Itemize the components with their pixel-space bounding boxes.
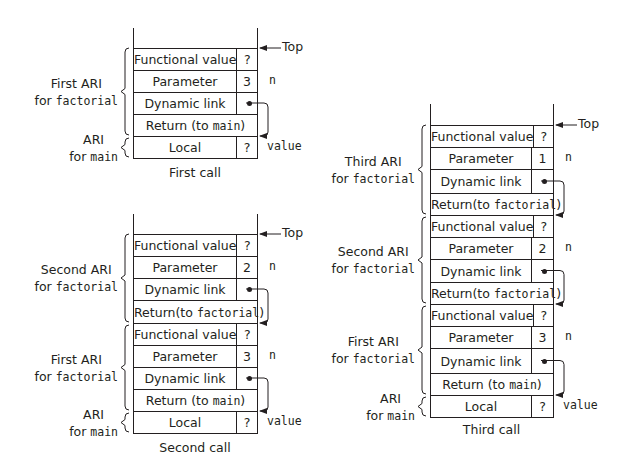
row-label-text: Local	[169, 415, 201, 430]
row-label: Parameter	[431, 151, 531, 166]
ari-label-line2: for main	[69, 148, 118, 166]
row-value-cell: ?	[533, 216, 553, 237]
ari-label-line2: for factorial	[332, 170, 415, 188]
ari-group-label: First ARIfor factorial	[35, 75, 118, 110]
row-label: Parameter	[134, 260, 236, 275]
stack-row: Return (to main)	[430, 373, 554, 395]
row-label: Dynamic link	[431, 354, 531, 369]
stack-right-rail	[257, 214, 258, 234]
ari-brace	[418, 306, 426, 394]
stack-row: Return(to factorial)	[430, 282, 554, 304]
row-value-cell: 1	[531, 148, 553, 169]
row-value-cell: 3	[531, 327, 553, 348]
row-label: Parameter	[134, 74, 236, 89]
stack-left-rail	[430, 104, 431, 125]
stack-row: Parameter3	[430, 326, 554, 348]
stack-row: Functional value?	[430, 125, 554, 147]
ari-brace	[121, 413, 129, 432]
row-label-suffix: )	[537, 377, 542, 392]
ari-brace	[121, 138, 129, 157]
row-label-text: Dynamic link	[440, 264, 521, 279]
row-value-cell: ?	[533, 305, 553, 326]
row-label-text: Return (to	[146, 393, 213, 408]
parameter-name-n: n	[565, 150, 572, 164]
ari-label-prefix: for	[35, 93, 56, 108]
row-label: Functional value	[431, 308, 533, 323]
dynamic-link-dot-icon	[236, 93, 257, 114]
row-label: Return (to main)	[134, 118, 257, 133]
parameter-name-n: n	[269, 348, 276, 362]
row-label-text: Functional value	[134, 238, 236, 253]
ari-label-line2: for factorial	[35, 368, 118, 386]
stack-row: Parameter2	[430, 237, 554, 259]
row-label-text: Return (to	[442, 377, 509, 392]
top-pointer-label: Top	[578, 116, 599, 131]
pointer-dot-icon	[247, 101, 252, 106]
stack-row: Parameter3	[133, 70, 258, 92]
row-label-code: main	[213, 119, 241, 133]
ari-brace	[418, 125, 426, 214]
top-pointer-label: Top	[282, 225, 303, 240]
stack-row: Dynamic link	[133, 367, 258, 389]
row-value-cell: ?	[236, 235, 257, 256]
row-label-text: Local	[169, 140, 201, 155]
row-label-text: Functional value	[134, 327, 236, 342]
row-label-text: Functional value	[431, 129, 533, 144]
pointer-dot-icon	[542, 359, 547, 364]
ari-label-prefix: for	[69, 149, 90, 164]
ari-label-code: factorial	[353, 352, 415, 366]
ari-brace	[418, 397, 426, 416]
stack-row: Functional value?	[133, 48, 258, 70]
ari-brace	[418, 217, 426, 303]
row-label: Dynamic link	[431, 174, 531, 189]
stack-row: Dynamic link	[430, 259, 554, 282]
row-label-text: Dynamic link	[144, 96, 225, 111]
row-label: Dynamic link	[134, 282, 236, 297]
row-label-text: Parameter	[448, 330, 513, 345]
row-label: Functional value	[431, 129, 533, 144]
ari-label-line1: First ARI	[35, 351, 118, 368]
local-name-value: value	[563, 398, 598, 412]
row-label-suffix: )	[240, 118, 245, 133]
ari-label-line2: for main	[69, 423, 118, 441]
row-label-text: Local	[465, 399, 497, 414]
row-label: Return (to main)	[134, 393, 257, 408]
row-value-cell: 2	[236, 257, 257, 278]
ari-label-code: factorial	[353, 172, 415, 186]
row-label-text: Parameter	[152, 349, 217, 364]
pointer-dot-icon	[247, 376, 252, 381]
ari-label-line1: Second ARI	[332, 243, 415, 260]
stack-row: Return (to main)	[133, 114, 258, 136]
stack-row: Functional value?	[430, 304, 554, 326]
row-label: Parameter	[431, 330, 531, 345]
ari-label-code: factorial	[56, 94, 118, 108]
stack-left-rail	[133, 214, 134, 234]
ari-label-code: factorial	[353, 262, 415, 276]
row-value-cell: ?	[236, 324, 257, 345]
stack-right-rail	[553, 104, 554, 125]
pointer-dot-icon	[542, 179, 547, 184]
ari-label-prefix: for	[69, 424, 90, 439]
row-label: Return(to factorial)	[134, 305, 264, 320]
parameter-name-n: n	[565, 240, 572, 254]
ari-label-line1: Third ARI	[332, 153, 415, 170]
row-label: Return(to factorial)	[431, 286, 561, 301]
row-label: Functional value	[134, 238, 236, 253]
row-label: Dynamic link	[134, 96, 236, 111]
row-label: Functional value	[431, 219, 533, 234]
ari-label-line1: ARI	[69, 131, 118, 148]
ari-brace	[121, 234, 129, 322]
stack-row: Functional value?	[133, 323, 258, 345]
row-label-suffix: )	[556, 197, 561, 212]
row-label-text: Parameter	[448, 241, 513, 256]
ari-label-prefix: for	[366, 408, 387, 423]
dynamic-link-dot-icon	[531, 349, 553, 373]
dynamic-link-dot-icon	[531, 260, 553, 282]
stack-row: Functional value?	[133, 234, 258, 256]
parameter-name-n: n	[269, 73, 276, 87]
row-label: Return(to factorial)	[431, 197, 561, 212]
row-label-text: Parameter	[152, 260, 217, 275]
ari-group-label: First ARIfor factorial	[35, 351, 118, 386]
row-label-text: Parameter	[152, 74, 217, 89]
row-label: Dynamic link	[431, 264, 531, 279]
